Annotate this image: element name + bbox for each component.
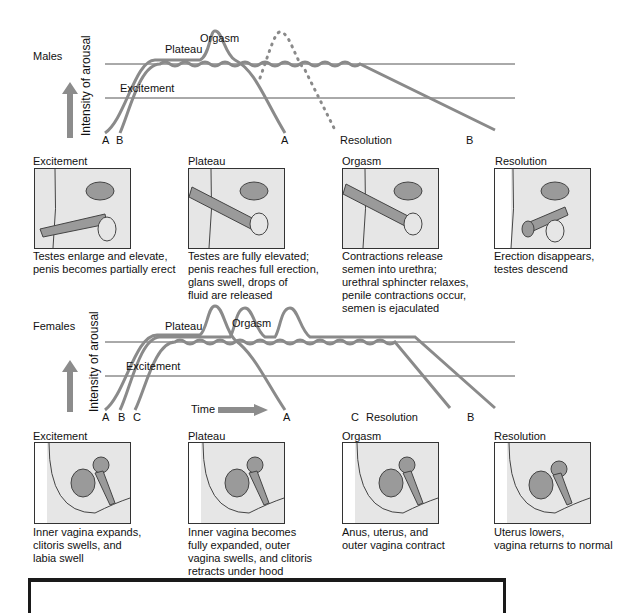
males-yaxis-label: Intensity of arousal: [80, 35, 93, 136]
female-panel-plateau-desc: Inner vagina becomes fully expanded, out…: [188, 526, 312, 578]
male-anatomy-plateau-illustration: [188, 168, 285, 249]
bottom-frame: [28, 578, 506, 613]
male-panel-plateau-title: Plateau: [188, 155, 225, 167]
females-curve-c-end: C: [351, 411, 359, 424]
females-curve-c-start: C: [133, 411, 141, 424]
males-curve-b-start: B: [116, 134, 123, 147]
females-curve-b-start: B: [118, 411, 125, 424]
female-panel-resolution-desc: Uterus lowers, vagina returns to normal: [494, 526, 613, 552]
female-panel-orgasm-desc: Anus, uterus, and outer vagina contract: [342, 526, 445, 552]
females-curve-a-end: A: [283, 411, 290, 424]
female-panel-plateau-title: Plateau: [188, 430, 225, 442]
arousal-arrow-icon: [62, 360, 78, 412]
female-panel-excitement-title: Excitement: [33, 430, 87, 442]
males-plateau-label: Plateau: [165, 43, 202, 56]
male-panel-excitement-desc: Testes enlarge and elevate, penis become…: [33, 250, 175, 276]
male-panel-plateau-desc: Testes are fully elevated; penis reaches…: [188, 250, 319, 302]
males-curve-a-start: A: [102, 134, 109, 147]
females-excitement-label: Excitement: [126, 360, 180, 373]
female-panel-resolution-title: Resolution: [494, 430, 546, 442]
females-curve-a-start: A: [102, 411, 109, 424]
male-panel-excitement-title: Excitement: [33, 155, 87, 167]
females-curve-b-end: B: [467, 411, 474, 424]
time-arrow-icon: [218, 404, 268, 416]
female-panel-orgasm-title: Orgasm: [342, 430, 381, 442]
male-anatomy-excitement-illustration: [34, 168, 131, 249]
males-curve-b-end: B: [466, 134, 473, 147]
female-anatomy-orgasm-illustration: [342, 442, 439, 524]
females-plateau-label: Plateau: [165, 320, 202, 333]
female-panel-excitement-desc: Inner vagina expands, clitoris swells, a…: [33, 526, 141, 565]
male-panel-resolution-title: Resolution: [495, 155, 547, 167]
males-arousal-graph: [95, 0, 515, 140]
females-resolution-label: Resolution: [366, 411, 418, 424]
male-anatomy-orgasm-illustration: [342, 168, 439, 249]
arousal-arrow-icon: [62, 82, 78, 138]
female-anatomy-plateau-illustration: [188, 442, 285, 524]
males-curve-a-end: A: [281, 134, 288, 147]
males-resolution-label: Resolution: [340, 134, 392, 147]
female-anatomy-resolution-illustration: [494, 442, 591, 524]
females-title: Females: [33, 320, 75, 333]
male-anatomy-resolution-illustration: [494, 168, 591, 249]
females-orgasm-label: Orgasm: [232, 317, 271, 330]
male-panel-orgasm-title: Orgasm: [342, 155, 381, 167]
male-panel-resolution-desc: Erection disappears, testes descend: [494, 250, 594, 276]
males-title: Males: [33, 50, 62, 63]
males-orgasm-label: Orgasm: [200, 32, 239, 45]
males-excitement-label: Excitement: [120, 82, 174, 95]
female-anatomy-excitement-illustration: [34, 442, 131, 524]
time-label: Time: [191, 403, 215, 416]
